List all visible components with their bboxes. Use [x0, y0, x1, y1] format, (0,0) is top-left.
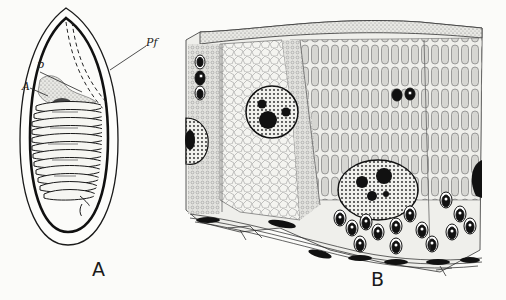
annotation-pf: Pf: [146, 36, 157, 49]
annotation-p: p: [37, 58, 44, 71]
figure: p A Pf A B: [0, 0, 506, 300]
panel-label-b: B: [371, 268, 384, 290]
figure-drawing: [0, 0, 506, 300]
panel-label-a: A: [92, 258, 105, 280]
annotation-a: A: [22, 80, 30, 93]
panel-a-drawing: [20, 8, 146, 245]
panel-b-drawing: [185, 21, 482, 276]
